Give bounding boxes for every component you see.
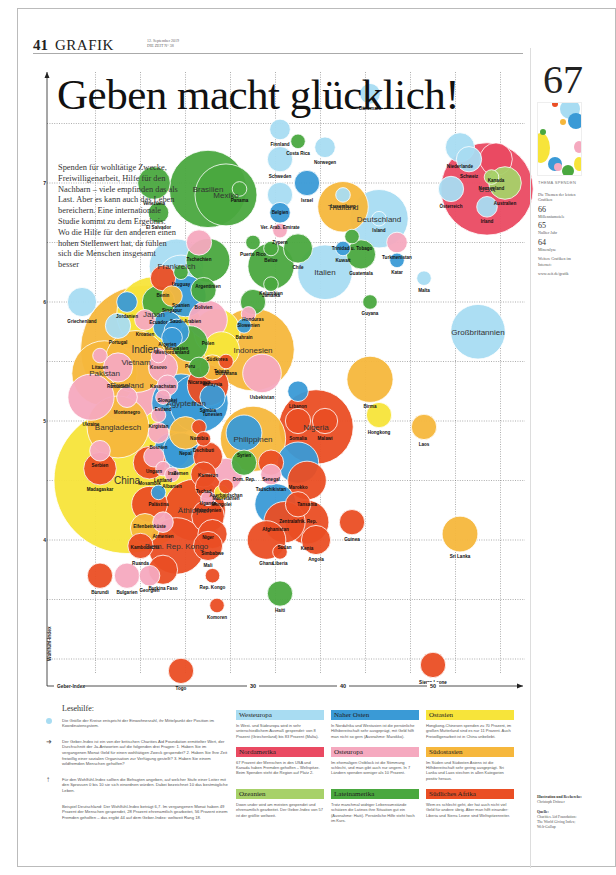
region-heading: Westeuropa (236, 710, 324, 720)
thumbnail-preview[interactable] (537, 102, 582, 176)
bubble-label: Montenegro (114, 410, 140, 415)
bubble-label: Tansania (297, 502, 317, 507)
bubble-label: Russland (110, 381, 143, 390)
bubble-label: Äthiopien (178, 506, 211, 515)
x-tick-label: 40 (340, 683, 346, 689)
region-suedliches-afrika: Südliches AfrikaWem es schlecht geht, de… (426, 789, 514, 823)
bubble-bolivien (191, 277, 216, 302)
thumb-dot (560, 119, 566, 125)
bubble-costa-rica (291, 134, 306, 149)
x-tick-label: 30 (250, 683, 256, 689)
bubble-label: Singapur (162, 308, 182, 313)
bubble-label: Sri Lanka (450, 554, 471, 559)
bubble-label: Simbabwe (201, 551, 224, 556)
bubble-label: Honduras (242, 317, 264, 322)
bubble-label: Guinea (344, 537, 360, 542)
bubble-label: Belize (264, 258, 278, 263)
bubble-label: Nepal (179, 451, 192, 456)
guide-item: Beispiel Deutschland: Der Wohlfühl-Index… (38, 804, 228, 821)
bubble-label: Chile (292, 265, 304, 270)
region-westeuropa: WesteuropaIn West- und Südeuropa wird in… (236, 710, 324, 739)
thumb-dot (540, 129, 546, 135)
more-link[interactable]: www.zeit.de/grafik (538, 271, 582, 277)
thema-label: THEMA SPENDEN (538, 180, 582, 186)
bubble-label: Indien (131, 344, 158, 355)
bubble-label: Tunesien (203, 412, 223, 417)
x-axis-arrow (517, 684, 523, 689)
bubble-label: Malawi (317, 436, 332, 441)
bubble-label: Dschibuti (193, 448, 214, 453)
bubble-label: USA (479, 185, 496, 194)
previous-label: Die Themen der letzten Grafiken (538, 192, 582, 203)
bubble-rep-kongo (205, 568, 220, 583)
bubble-label: Tadschikistan (256, 487, 286, 492)
region-text: Wem es schlecht geht, der hat auch nicht… (426, 802, 514, 818)
bubble-label: Serbien (92, 463, 109, 468)
bubble-label: Namibia (190, 436, 208, 441)
bubble-label: Italien (314, 268, 335, 277)
bubble-label: Armenien (152, 534, 173, 539)
bubble-label: Puerto Rico (240, 252, 266, 257)
bubble-label: Zypern (272, 240, 288, 245)
bubble-irland (477, 196, 498, 217)
bubble-label: Schweiz (460, 174, 479, 179)
bubble-finnland (270, 119, 291, 140)
bubble-label: Bolivien (195, 305, 213, 310)
region-heading: Lateinamerika (331, 789, 419, 799)
more-text: Weitere Grafiken im Internet: (538, 256, 582, 267)
bubble-luxemburg (336, 188, 351, 203)
previous-num: 66 (538, 205, 582, 214)
bubble-label: Philippinen (233, 435, 272, 444)
intro-text: Spenden für wohltätige Zwecke, Freiwilli… (58, 163, 178, 271)
bubble-burundi (87, 563, 112, 588)
bubble-label: Südkorea (207, 357, 228, 362)
bubble-jamaika (264, 277, 279, 292)
bubble-label: Griechenland (67, 319, 97, 324)
bubble-norwegen (315, 137, 336, 158)
bubble-label: Panama (231, 198, 249, 203)
bubble-label: Syrien (237, 453, 251, 458)
arrow-up-icon: ↑ (46, 777, 52, 783)
bubble-label: Israel (301, 198, 313, 203)
illustration-name: Christoph Drösser (537, 800, 582, 805)
bubble-label: Uruguay (172, 282, 191, 287)
bubble-label: Mali (204, 563, 213, 568)
region-suedostasien: SüdostasienIm Süden und Südosten Asiens … (426, 747, 514, 781)
bubble-syrien (226, 415, 262, 451)
bubble-label: Jordanien (116, 314, 138, 319)
bubble-label: Bulgarien (116, 590, 137, 595)
guide-item: Die Größe der Kreise entspricht der Einw… (38, 718, 228, 729)
bubble-label: Dem. Rep. Kongo (145, 542, 209, 551)
bubble-label: Elfenbeinküste (133, 524, 166, 529)
region-heading: Naher Osten (331, 710, 419, 720)
previous-title: Mineralyse (538, 247, 582, 253)
region-lateinamerika: LateinamerikaTrotz manchmal widriger Leb… (331, 789, 419, 823)
region-text: In Nordafrika und Westasien ist die pers… (331, 723, 419, 739)
bubble-haiti (267, 581, 292, 606)
bubble-label: Argentinien (195, 284, 221, 289)
bubble-label: Island (372, 228, 385, 233)
bubble-label: Rep. Kongo (200, 585, 226, 590)
credits: Illustration und Recherche: Christoph Dr… (537, 795, 582, 830)
guide-item: ↑ Für den Wohlfühl-Index sollten die Bef… (38, 777, 228, 794)
bubble-label: Hongkong (368, 430, 391, 435)
bubble-israel (294, 170, 319, 195)
bubble-jordanien (117, 292, 138, 313)
bubble-label: Norwegen (314, 160, 336, 165)
region-heading: Nordamerika (236, 747, 324, 757)
bubble-label: Kanada (488, 178, 505, 183)
bubble-label: Thailand (328, 203, 359, 212)
bubble-label: Senegal (262, 477, 280, 482)
bubble-usbekistan (243, 354, 282, 393)
bubble-label: Ecuador (149, 320, 168, 325)
x-axis-label: Geber-Index (57, 684, 85, 689)
bubble-label: Pakistan (89, 369, 120, 378)
bubble-label: Kuwait (335, 258, 351, 263)
previous-title: Millennium­ziele (538, 214, 582, 220)
bubble-label: Indonesien (233, 346, 272, 355)
bubble-label: Benin (157, 293, 170, 298)
bubble-komoren (210, 598, 225, 613)
bubble-label: Saudi-Arabien (170, 319, 201, 324)
bubble-tschechien (186, 230, 211, 255)
y-tick-label: 6 (43, 299, 46, 305)
